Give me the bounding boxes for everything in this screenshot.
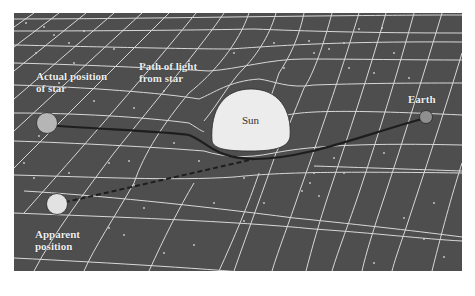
earth-circle — [420, 111, 433, 124]
path-of-light-line-2: from star — [139, 72, 197, 84]
actual-position-label: Actual position of star — [36, 70, 107, 94]
path-of-light-line-1: Path of light — [139, 60, 197, 72]
actual-position-line-1: Actual position — [36, 70, 107, 82]
actual-position-line-2: of star — [36, 82, 107, 94]
path-of-light-label: Path of light from star — [139, 60, 197, 84]
spacetime-diagram: Actual position of star Path of light fr… — [14, 13, 462, 271]
apparent-position-label: Apparent position — [35, 228, 80, 252]
spacetime-grid — [14, 13, 462, 271]
apparent-position-line-2: position — [35, 240, 80, 252]
sun-label: Sun — [242, 114, 259, 126]
apparent-sightline-dashed — [57, 159, 254, 204]
apparent-star-circle — [47, 194, 68, 215]
earth-label: Earth — [408, 93, 436, 105]
actual-star-circle — [37, 113, 58, 134]
cut-off-caption — [20, 0, 460, 5]
apparent-position-line-1: Apparent — [35, 228, 80, 240]
